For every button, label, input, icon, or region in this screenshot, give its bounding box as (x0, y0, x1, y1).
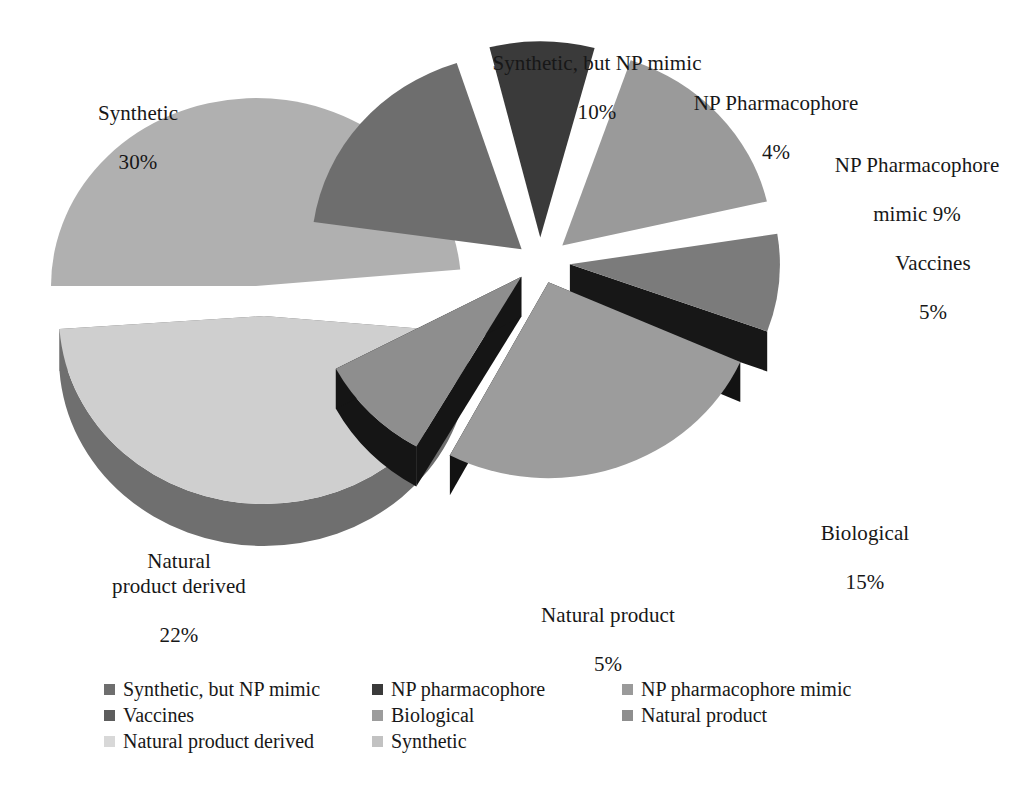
legend-swatch-icon (104, 684, 115, 695)
legend-item: Biological (372, 704, 622, 727)
legend-item-label: NP pharmacophore mimic (641, 678, 851, 701)
callout-vaccines-label: Vaccines (868, 251, 998, 276)
callout-synthetic-label: Synthetic (48, 101, 228, 126)
legend-swatch-icon (622, 684, 633, 695)
legend-item: Natural product (622, 704, 924, 727)
legend-item-label: Natural product (641, 704, 767, 727)
legend-item-label: Synthetic, but NP mimic (123, 678, 320, 701)
callout-synthetic: Synthetic 30% (48, 76, 228, 200)
callout-natural-product-label: Natural product (508, 603, 708, 628)
callout-natural-product-derived-value: 22% (72, 623, 286, 648)
legend-item-label: NP pharmacophore (391, 678, 545, 701)
callout-biological: Biological 15% (794, 496, 936, 620)
pie-chart-figure: Synthetic 30% Natural product derived 22… (0, 0, 1030, 790)
legend-item: Synthetic (372, 730, 622, 753)
callout-vaccines: Vaccines 5% (868, 226, 998, 350)
callout-np-pharmacophore-label: NP Pharmacophore (676, 91, 876, 116)
callout-biological-label: Biological (794, 521, 936, 546)
callout-vaccines-value: 5% (868, 300, 998, 325)
callout-np-pharmacophore-mimic-value: mimic 9% (816, 202, 1018, 227)
legend-item-label: Biological (391, 704, 474, 727)
legend-swatch-icon (372, 710, 383, 721)
legend-item: NP pharmacophore mimic (622, 678, 924, 701)
legend-item: Synthetic, but NP mimic (104, 678, 372, 701)
legend-swatch-icon (622, 710, 633, 721)
callout-natural-product-value: 5% (508, 652, 708, 677)
legend-item: NP pharmacophore (372, 678, 622, 701)
callout-natural-product-derived-label: Natural product derived (72, 549, 286, 599)
chart-legend: Synthetic, but NP mimicNP pharmacophoreN… (104, 676, 924, 754)
legend-item-label: Vaccines (123, 704, 194, 727)
legend-swatch-icon (104, 736, 115, 747)
legend-item-label: Natural product derived (123, 730, 314, 753)
legend-swatch-icon (372, 736, 383, 747)
callout-np-pharmacophore-mimic-label: NP Pharmacophore (816, 153, 1018, 178)
callout-biological-value: 15% (794, 570, 936, 595)
callout-natural-product-derived: Natural product derived 22% (72, 524, 286, 673)
legend-swatch-icon (104, 710, 115, 721)
legend-item-label: Synthetic (391, 730, 467, 753)
callout-synthetic-value: 30% (48, 150, 228, 175)
legend-swatch-icon (372, 684, 383, 695)
legend-item: Natural product derived (104, 730, 372, 753)
legend-item: Vaccines (104, 704, 372, 727)
